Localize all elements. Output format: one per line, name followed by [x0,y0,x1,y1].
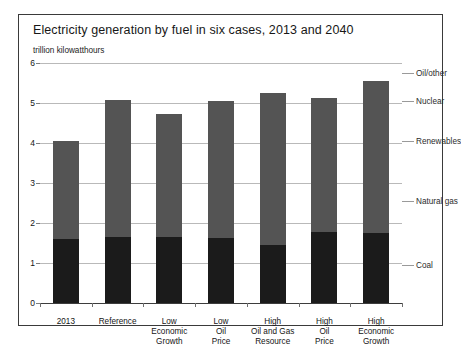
x-axis-tick-mark [40,303,41,307]
x-axis-tick-label-line: Low [151,317,187,327]
y-axis-tick-mark [36,223,40,224]
y-axis-tick-label: 3 [30,178,35,188]
x-axis-tick-mark [195,303,196,307]
x-axis-tick-label-line: Oil [212,327,231,337]
x-axis-tick-label: LowEconomicGrowth [151,317,187,346]
x-axis-tick-label-line: High [315,317,334,327]
x-axis-tick-label-line: 2013 [57,317,75,327]
bar-low-oil-price [208,101,234,303]
x-axis-tick-label-line: Resource [251,337,294,347]
x-axis-tick-mark [350,303,351,307]
y-axis-tick-label: 2 [30,218,35,228]
bar-segment-coal [156,237,182,303]
fuel-annotation-leader [402,201,414,202]
fuel-annotation-oil-other: Oil/other [416,69,447,78]
x-axis-tick-label-line: Economic [151,327,187,337]
x-axis-tick-label-line: Price [212,337,231,347]
x-axis-tick-label-line: Reference [99,317,137,327]
bar-segment-coal [53,239,79,303]
x-axis-tick-label-line: Price [315,337,334,347]
x-axis-tick-mark [143,303,144,307]
y-axis-tick-mark [36,183,40,184]
bar-segment-coal [260,245,286,303]
bar-segment-coal [105,237,131,303]
x-axis-tick-mark [92,303,93,307]
fuel-annotation-leader [402,265,414,266]
y-axis-tick-mark [36,103,40,104]
y-axis-tick-label: 4 [30,138,35,148]
bar-segment-coal [208,238,234,303]
x-axis-tick-label-line: Low [212,317,231,327]
x-axis-tick-label-line: Growth [358,337,394,347]
x-axis-tick-label-line: Economic [358,327,394,337]
chart-title: Electricity generation by fuel in six ca… [33,23,354,37]
chart-figure: Electricity generation by fuel in six ca… [18,14,443,326]
y-axis-tick-label: 6 [30,58,35,68]
bar-segment-coal [363,233,389,303]
y-axis-tick-label: 1 [30,258,35,268]
y-axis-tick-mark [36,143,40,144]
x-axis-tick-label: LowOilPrice [212,317,231,346]
x-axis-tick-mark [299,303,300,307]
bar-high-oil-price [311,98,337,303]
fuel-annotation-coal: Coal [416,261,433,270]
x-axis-tick-label: Reference [99,317,137,327]
x-axis-tick-label: HighEconomicGrowth [358,317,394,346]
bar-segment-coal [311,232,337,303]
bar-low-economic-growth [156,114,182,303]
y-axis-tick-label: 5 [30,98,35,108]
y-axis-tick-mark [36,63,40,64]
fuel-annotation-natural-gas: Natural gas [416,197,458,206]
bar-high-economic-growth [363,81,389,303]
x-axis-tick-mark [247,303,248,307]
gridline [40,63,402,64]
x-axis-tick-mark [402,303,403,307]
x-axis-tick-label-line: Oil and Gas [251,327,294,337]
x-axis-tick-label-line: High [251,317,294,327]
fuel-annotation-leader [402,73,414,74]
x-axis-tick-label-line: Oil [315,327,334,337]
y-axis-tick-mark [36,263,40,264]
x-axis-tick-label-line: Growth [151,337,187,347]
bar-2013 [53,141,79,303]
bar-high-oil-and-gas-resource [260,93,286,303]
x-axis-tick-label: 2013 [57,317,75,327]
fuel-annotation-leader [402,101,414,102]
plot-area: 01234562013ReferenceLowEconomicGrowthLow… [40,63,402,303]
chart-subtitle: trillion kilowatthours [33,46,104,55]
y-axis-tick-label: 0 [30,298,35,308]
fuel-annotation-leader [402,141,414,142]
fuel-annotation-nuclear: Nuclear [416,97,444,106]
x-axis-tick-label: HighOilPrice [315,317,334,346]
x-axis-tick-label-line: High [358,317,394,327]
bar-reference [105,100,131,303]
x-axis-tick-label: HighOil and GasResource [251,317,294,346]
fuel-annotation-renewables: Renewables [416,137,461,146]
gridline [40,303,402,304]
